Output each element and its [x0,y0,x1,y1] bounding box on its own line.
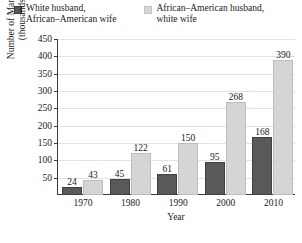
bar-value-label: 268 [229,92,243,102]
y-axis-tick-label: 350 [38,69,52,79]
y-axis-tick-label: 250 [38,103,52,113]
bar-value-label: 390 [276,50,290,60]
y-axis-tick-label: 400 [38,51,52,61]
x-axis-tick-label: 2000 [216,198,235,208]
bar-white-husband: 45 [110,179,130,195]
bar-value-label: 45 [115,169,125,179]
x-axis-tick-label: 2010 [264,198,283,208]
chart-legend: White husband, African–American wife Afr… [0,3,302,31]
bar-value-label: 150 [181,133,195,143]
y-axis-tick-label: 100 [38,155,52,165]
y-axis-tick-label: 150 [38,138,52,148]
bar-african-american-husband: 268 [226,102,246,195]
bar-group: 2443 [57,39,105,195]
bar-white-husband: 61 [157,174,177,195]
legend-label-white-husband: White husband, African–American wife [26,3,116,25]
bars-layer: 2443451226115095268168390 [57,39,295,195]
bar-value-label: 168 [255,127,269,137]
bar-group: 95268 [200,39,248,195]
bar-white-husband: 24 [62,187,82,195]
bar-value-label: 61 [162,164,172,174]
y-axis-tick-label: 300 [38,86,52,96]
bar-value-label: 43 [88,170,98,180]
y-axis-title: Number of Marriages (thousands) [6,0,28,73]
x-axis-tick-label: 1980 [121,198,140,208]
bar-group: 45122 [105,39,153,195]
legend-entry-african-american-husband: African–American husband, white wife [144,3,264,25]
bar-african-american-husband: 390 [273,60,293,195]
bar-value-label: 95 [210,152,220,162]
bar-african-american-husband: 150 [178,143,198,195]
legend-entry-white-husband: White husband, African–American wife [14,3,116,25]
y-axis-tick-label: 200 [38,121,52,131]
bar-chart: Number of Marriages (thousands) 50100150… [0,31,302,211]
bar-group: 61150 [152,39,200,195]
x-axis-tick-label: 1990 [169,198,188,208]
bar-group: 168390 [247,39,295,195]
bar-white-husband: 95 [205,162,225,195]
bar-african-american-husband: 122 [131,153,151,195]
y-axis-tick-label: 450 [38,34,52,44]
x-axis-tick-label: 1970 [74,198,93,208]
x-axis-title: Year [57,212,295,222]
x-axis-tick-labels: 19701980199020002010 [57,198,295,212]
bar-white-husband: 168 [252,137,272,195]
bar-value-label: 122 [133,143,147,153]
bar-african-american-husband: 43 [83,180,103,195]
legend-swatch-light [144,6,152,14]
y-axis-title-wrapper: Number of Marriages (thousands) [8,39,22,195]
y-axis-tick-label: 50 [43,173,53,183]
bar-value-label: 24 [67,177,77,187]
legend-label-african-american-husband: African–American husband, white wife [156,3,264,25]
